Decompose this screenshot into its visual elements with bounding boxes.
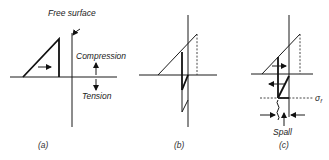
spall-diagram: Free surface Compression Tension (a) (b)… [0, 0, 329, 160]
tension-label: Tension [82, 91, 112, 101]
spall-fracture-wavy-line [277, 100, 279, 120]
panel-a-caption: (a) [38, 140, 49, 150]
panel-b-incident-wave-front [158, 34, 197, 75]
panel-c: σf Spall (c) [251, 15, 323, 150]
panel-b: (b) [139, 15, 217, 150]
spall-label: Spall [273, 127, 293, 137]
fracture-stress-label: σf [315, 93, 323, 104]
panel-b-reflected-tension-slope [182, 100, 188, 112]
panel-c-reflected-tension-front [278, 76, 289, 98]
panel-c-caption: (c) [279, 140, 289, 150]
panel-a-compressive-pulse [23, 39, 59, 77]
compression-label: Compression [76, 51, 126, 61]
panel-b-caption: (b) [174, 140, 185, 150]
panel-c-incident-wave-front [262, 34, 300, 74]
free-surface-label: Free surface [48, 8, 96, 18]
free-surface-leader-arrow-icon [73, 29, 80, 35]
panel-a: Free surface Compression Tension (a) [10, 8, 126, 150]
